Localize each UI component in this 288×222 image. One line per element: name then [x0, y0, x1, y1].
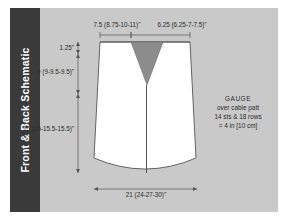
dim-armhole-arrow-top — [76, 54, 80, 58]
sidebar-title-text: Front & Back Schematic — [19, 47, 31, 172]
gauge-info-block: GAUGE over cable patt 14 sts & 18 rows =… — [200, 94, 276, 130]
dim-armhole-arrow-bottom — [76, 90, 80, 94]
label-body-length: 15 (15-15.5-15.5)" — [6, 125, 74, 132]
label-shoulder-slope: 1.25" — [48, 44, 74, 51]
gauge-pattern-line: over cable patt — [200, 103, 276, 112]
gauge-stitch-count-line: 14 sts & 18 rows — [200, 112, 276, 121]
gauge-title: GAUGE — [200, 94, 276, 103]
sidebar-title-bar: Front & Back Schematic — [10, 8, 40, 212]
schematic-page: Front & Back Schematic — [0, 0, 288, 222]
label-armhole-depth: 9 (9-9.5-9.5)" — [26, 68, 74, 75]
label-neck-width: 6.25 (6.25-7-7.5)" — [132, 21, 232, 28]
label-bottom-width: 21 (24-27-30)" — [96, 191, 196, 198]
schematic-drawing-area: 7.5 (8.75-10-11)" 6.25 (6.25-7-7.5)" 1.2… — [40, 8, 278, 212]
dim-body-length-arrow-top — [76, 94, 80, 98]
dim-shoulder-slope-arrow-bottom — [76, 50, 80, 54]
dim-shoulder-slope-arrow-top — [76, 42, 80, 46]
dim-body-length-arrow-bottom — [76, 169, 80, 173]
gauge-measurement-line: = 4 in [10 cm] — [200, 121, 276, 130]
